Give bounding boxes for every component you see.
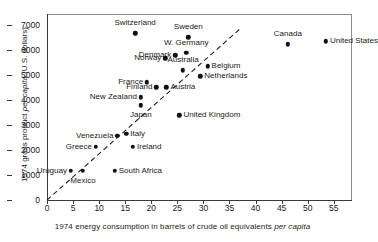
data-point-label: Japan bbox=[130, 111, 152, 120]
x-tick-label: 35 bbox=[217, 204, 241, 213]
x-tick-label: 50 bbox=[296, 204, 320, 213]
x-tick-label: 45 bbox=[270, 204, 294, 213]
y-axis-title: 1974 gross product per capita (U.S. doll… bbox=[20, 5, 29, 205]
data-point-label: Mexico bbox=[70, 177, 95, 186]
data-point-label: Austria bbox=[170, 83, 195, 92]
data-point-label: Uruguay bbox=[37, 167, 67, 176]
data-point-label: United States bbox=[330, 37, 378, 46]
x-tick-label: 0 bbox=[35, 204, 59, 213]
data-point-label: Venezuela bbox=[76, 132, 113, 141]
data-point-label: South Africa bbox=[119, 166, 162, 175]
x-tick-label: 5 bbox=[61, 204, 85, 213]
data-point-label: Belgium bbox=[212, 62, 241, 71]
x-tick-label: 30 bbox=[191, 204, 215, 213]
x-tick-label: 25 bbox=[165, 204, 189, 213]
data-point-label: Finland bbox=[126, 83, 152, 92]
data-point-label: Switzerland bbox=[114, 19, 155, 28]
x-tick-label: 40 bbox=[244, 204, 268, 213]
data-point-label: Canada bbox=[274, 30, 302, 39]
data-point-label: W. Germany bbox=[164, 39, 208, 48]
data-point-label: Norway bbox=[134, 54, 161, 63]
data-point-label: Netherlands bbox=[204, 72, 247, 81]
data-point-label: Sweden bbox=[174, 23, 203, 32]
data-point-label: United Kingdom bbox=[183, 111, 240, 120]
data-point-label: Australia bbox=[168, 56, 199, 65]
x-axis-line bbox=[47, 200, 352, 201]
x-tick-label: 10 bbox=[87, 204, 111, 213]
x-tick-label: 15 bbox=[113, 204, 137, 213]
data-point-label: Greece bbox=[66, 143, 92, 152]
data-point-label: Ireland bbox=[137, 143, 161, 152]
data-point-label: Italy bbox=[130, 130, 145, 139]
x-tick-label: 55 bbox=[322, 204, 346, 213]
x-axis-title: 1974 energy consumption in barrels of cr… bbox=[0, 222, 365, 231]
x-tick-label: 20 bbox=[139, 204, 163, 213]
data-point-label: New Zealand bbox=[90, 93, 137, 102]
